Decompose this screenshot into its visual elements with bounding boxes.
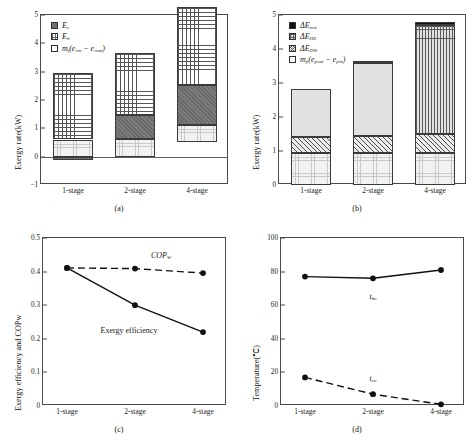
- panel-d-annotation-tho: tho: [369, 292, 376, 301]
- panel-b-legend-item-DW: ΔEDW: [289, 43, 345, 54]
- panel-a-legend-item-Eh: Eh: [51, 32, 105, 43]
- panel-a-seg-Eh-4: [177, 7, 217, 86]
- panel-b-seg-HE-2: [353, 63, 393, 136]
- panel-b-seg-DW-2: [353, 136, 393, 153]
- panel-a-bar-2-stage: [115, 15, 155, 185]
- panel-b-legend-label-DW: ΔEDW: [300, 44, 317, 53]
- panel-c-xtick-1: 2-stage: [124, 408, 145, 416]
- panel-b-seg-DW-1: [291, 137, 331, 153]
- legend-swatch-icon: [289, 56, 296, 63]
- panel-b-bar-2-stage: [353, 15, 393, 185]
- panel-b-seg-DW-4: [415, 134, 455, 153]
- panel-a-seg-Ec-4: [177, 85, 217, 125]
- legend-swatch-icon: [51, 33, 58, 40]
- panel-b-legend-item-mix: ΔEmix: [289, 20, 345, 31]
- panel-b-caption: (b): [238, 204, 476, 213]
- panel-c-line-exergy-efficiency: [67, 268, 203, 332]
- panel-b-seg-HE-4: [415, 25, 455, 134]
- panel-d-caption: (d): [238, 425, 476, 434]
- panel-a-legend-label-Eh: Eh: [62, 32, 69, 41]
- panel-b-seg-mp-1: [291, 153, 331, 185]
- panel-a-seg-Ec-2: [115, 115, 155, 139]
- panel-c-y-axis-label: Exergy efficiency and COPw: [14, 315, 23, 411]
- panel-a-seg-Eh-2: [115, 53, 155, 115]
- panel-b-legend-item-mp: mp(epout − epin): [289, 55, 345, 66]
- panel-d-markers-tho: [302, 267, 444, 281]
- panel-b-bar-4-stage: [415, 15, 455, 185]
- panel-b-seg-mp-4: [415, 153, 455, 185]
- panel-d-plot-area: 100 80 60 40 20 0 tho: [280, 237, 464, 405]
- panel-a-bar-4-stage: [177, 15, 217, 185]
- panel-a: Exergy rate(kW) 5 4 3 2 1 0 −1: [0, 0, 238, 223]
- panel-d: Temperature(℃) 100 80 60 40 20 0: [238, 223, 476, 446]
- panel-d-xtick-1: 2-stage: [362, 408, 383, 416]
- panel-c-annotation-copw: COPW: [151, 251, 171, 260]
- panel-d-annotation-tco: tco: [370, 374, 377, 383]
- panel-a-plot-area: 5 4 3 2 1 0 −1: [40, 14, 228, 184]
- panel-b-xtick-1: 2-stage: [362, 187, 383, 195]
- panel-b-legend-label-HE: ΔEHE: [300, 32, 316, 41]
- panel-c-caption: (c): [0, 425, 238, 434]
- legend-swatch-icon: [289, 45, 296, 52]
- panel-a-legend-label-Ec: Ec: [62, 21, 69, 30]
- panel-c-annotation-exergy-efficiency: Exergy efficiency: [101, 326, 158, 335]
- panel-b: Exergy rate(kW) 5 4 3 2 1 0: [238, 0, 476, 223]
- panel-a-seg-Eh-1: [53, 73, 93, 139]
- panel-b-xtick-0: 1-stage: [300, 187, 321, 195]
- panel-d-y-axis-label: Temperature(℃): [252, 345, 261, 401]
- panel-a-seg-Ec-1: [53, 157, 93, 160]
- panel-b-xtick-2: 4-stage: [424, 187, 445, 195]
- panel-a-legend-item-Ec: Ec: [51, 20, 105, 31]
- panel-a-xtick-0: 1-stage: [62, 187, 83, 195]
- panel-c-series-layer: [43, 238, 227, 406]
- legend-swatch-icon: [51, 45, 58, 52]
- panel-a-seg-mf-2: [115, 139, 155, 157]
- panel-b-seg-HE-1: [291, 89, 331, 137]
- panel-c-markers-copw: [64, 265, 206, 276]
- panel-a-y-axis-label: Exergy rate(kW): [14, 115, 23, 170]
- panel-d-xtick-0: 1-stage: [294, 408, 315, 416]
- panel-a-caption: (a): [0, 204, 238, 213]
- panel-b-plot-area: 5 4 3 2 1 0: [278, 14, 466, 184]
- figure-root: Exergy rate(kW) 5 4 3 2 1 0 −1: [0, 0, 476, 446]
- legend-swatch-icon: [51, 22, 58, 29]
- panel-a-xtick-1: 2-stage: [124, 187, 145, 195]
- panel-a-legend-label-mf: mf(erin − erout): [62, 44, 105, 53]
- panel-a-seg-mf-1: [53, 140, 93, 157]
- panel-d-xtick-2: 4-stage: [430, 408, 451, 416]
- panel-c-xtick-0: 1-stage: [56, 408, 77, 416]
- legend-swatch-icon: [289, 33, 296, 40]
- panel-c: Exergy efficiency and COPw 0.5 0.4 0.3 0…: [0, 223, 238, 446]
- panel-a-seg-mf-4: [177, 125, 217, 141]
- panel-a-xtick-2: 4-stage: [186, 187, 207, 195]
- panel-b-legend-item-HE: ΔEHE: [289, 32, 345, 43]
- panel-a-legend-item-mf: mf(erin − erout): [51, 43, 105, 54]
- panel-b-seg-mp-2: [353, 153, 393, 185]
- panel-b-legend-label-mp: mp(epout − epin): [300, 55, 345, 64]
- panel-b-legend: ΔEmix ΔEHE ΔEDW mp(epout − epin): [289, 20, 345, 66]
- panel-c-plot-area: 0.5 0.4 0.3 0.2 0.1 0: [42, 237, 226, 405]
- panel-b-legend-label-mix: ΔEmix: [300, 21, 317, 30]
- panel-c-xtick-2: 4-stage: [192, 408, 213, 416]
- panel-b-y-axis-label: Exergy rate(kW): [252, 115, 261, 170]
- panel-a-legend: Ec Eh mf(erin − erout): [51, 20, 105, 55]
- legend-swatch-icon: [289, 22, 296, 29]
